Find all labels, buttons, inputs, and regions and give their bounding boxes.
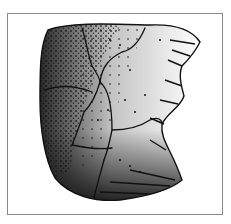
fossil-shell-illustration bbox=[0, 0, 231, 224]
